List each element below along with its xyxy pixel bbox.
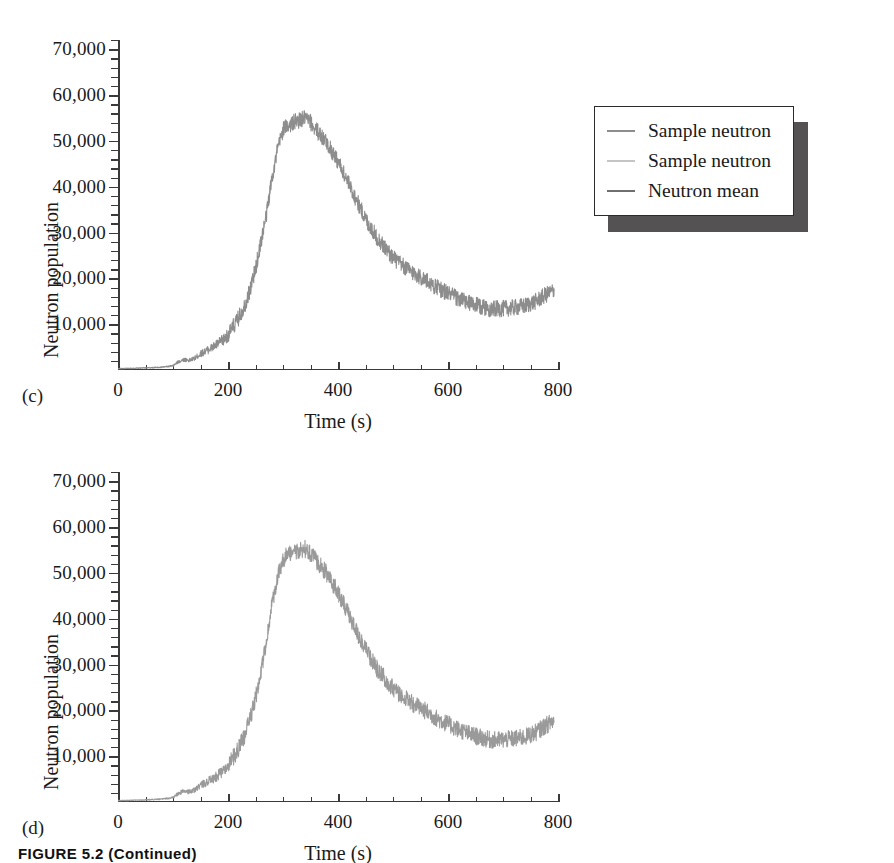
series-curve-d [118,472,558,802]
x-tick-label: 800 [544,379,573,401]
y-tick-minor [111,545,118,546]
y-tick-minor [111,490,118,491]
y-tick-minor [111,793,118,794]
y-tick-minor [111,509,118,510]
chart-plot-area-d: 10,00020,00030,00040,00050,00060,00070,0… [118,472,558,802]
y-tick-minor [111,58,118,59]
y-tick-minor [111,315,118,316]
y-tick-minor [111,150,118,151]
y-tick-minor [111,720,118,721]
y-tick-minor [111,564,118,565]
y-tick-minor [111,251,118,252]
x-tick-label: 800 [544,811,573,833]
x-tick-label: 200 [214,811,243,833]
y-tick-minor [111,500,118,501]
y-axis-title-c: Neutron population [40,202,63,358]
y-tick-minor [111,775,118,776]
x-tick-label: 600 [434,379,463,401]
y-tick-label: 40,000 [53,176,106,198]
y-tick-minor [111,536,118,537]
y-tick-minor [111,646,118,647]
y-tick-minor [111,518,118,519]
y-tick-label: 70,000 [53,38,106,60]
y-tick-minor [111,582,118,583]
y-tick-major [109,481,118,483]
legend-line-swatch-icon [607,190,635,192]
y-tick-minor [111,729,118,730]
legend-box-c: Sample neutron Sample neutron Neutron me… [594,106,794,216]
y-tick-minor [111,178,118,179]
y-tick-major [109,233,118,235]
chart-plot-area-c: 10,00020,00030,00040,00050,00060,00070,0… [118,40,558,370]
y-tick-minor [111,205,118,206]
x-tick-label: 400 [324,811,353,833]
y-tick-minor [111,637,118,638]
y-tick-label: 50,000 [53,130,106,152]
legend-c: Sample neutron Sample neutron Neutron me… [594,106,794,216]
y-tick-minor [111,242,118,243]
y-tick-minor [111,591,118,592]
y-tick-minor [111,269,118,270]
x-tick-label: 200 [214,379,243,401]
y-tick-major [109,619,118,621]
y-tick-minor [111,361,118,362]
y-tick-minor [111,104,118,105]
y-tick-minor [111,628,118,629]
y-tick-major [109,49,118,51]
x-tick-label: 0 [113,811,123,833]
figure-panel-d: 10,00020,00030,00040,00050,00060,00070,0… [0,432,894,862]
y-tick-minor [111,288,118,289]
figure-panel-c: 10,00020,00030,00040,00050,00060,00070,0… [0,0,894,430]
y-tick-minor [111,600,118,601]
legend-item-label: Sample neutron [648,120,771,142]
y-tick-minor [111,352,118,353]
y-tick-minor [111,214,118,215]
y-tick-minor [111,692,118,693]
legend-line-swatch-icon [607,130,635,132]
y-tick-label: 60,000 [53,84,106,106]
legend-item-label: Neutron mean [648,180,759,202]
y-tick-label: 50,000 [53,562,106,584]
y-tick-major [109,710,118,712]
y-tick-minor [111,747,118,748]
legend-item: Sample neutron [607,146,771,176]
y-tick-minor [111,223,118,224]
y-tick-minor [111,77,118,78]
x-tick-label: 0 [113,379,123,401]
legend-item: Neutron mean [607,176,771,206]
legend-line-swatch-icon [607,160,635,162]
series-curve-c [118,40,558,370]
y-tick-minor [111,113,118,114]
y-tick-major [109,756,118,758]
y-tick-major [109,665,118,667]
y-tick-major [109,573,118,575]
y-tick-minor [111,123,118,124]
y-tick-minor [111,343,118,344]
x-axis-title-c: Time (s) [118,410,558,433]
y-tick-major [109,95,118,97]
y-tick-minor [111,674,118,675]
y-tick-major [109,187,118,189]
y-tick-minor [111,472,118,473]
y-tick-minor [111,68,118,69]
y-tick-label: 70,000 [53,470,106,492]
y-tick-minor [111,655,118,656]
y-tick-minor [111,260,118,261]
y-axis-title-d: Neutron population [40,634,63,790]
y-tick-minor [111,701,118,702]
y-tick-minor [111,683,118,684]
y-tick-minor [111,40,118,41]
y-tick-minor [111,297,118,298]
y-tick-minor [111,765,118,766]
legend-item: Sample neutron [607,116,771,146]
x-tick-label: 600 [434,811,463,833]
y-tick-label: 40,000 [53,608,106,630]
y-tick-minor [111,86,118,87]
y-tick-minor [111,738,118,739]
y-tick-minor [111,196,118,197]
panel-label-c: (c) [22,385,43,407]
y-tick-major [109,278,118,280]
y-tick-minor [111,132,118,133]
y-tick-minor [111,306,118,307]
x-tick-major [558,794,560,802]
